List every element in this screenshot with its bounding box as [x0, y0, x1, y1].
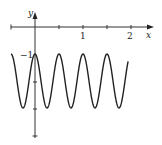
x-axis-label: x: [146, 30, 151, 40]
x-arrow-icon: [147, 25, 154, 30]
x-tick-label-2: 2: [127, 31, 133, 41]
chart-svg: y x 1 2 −1: [0, 0, 162, 145]
y-arrow-icon: [33, 12, 38, 19]
x-axis: [11, 25, 154, 30]
cosine-curve: [11, 54, 128, 108]
x-tick-label-1: 1: [80, 31, 86, 41]
y-axis-label: y: [27, 8, 34, 18]
y-tick-label-neg1: −1: [20, 50, 33, 60]
y-axis: [33, 12, 38, 138]
